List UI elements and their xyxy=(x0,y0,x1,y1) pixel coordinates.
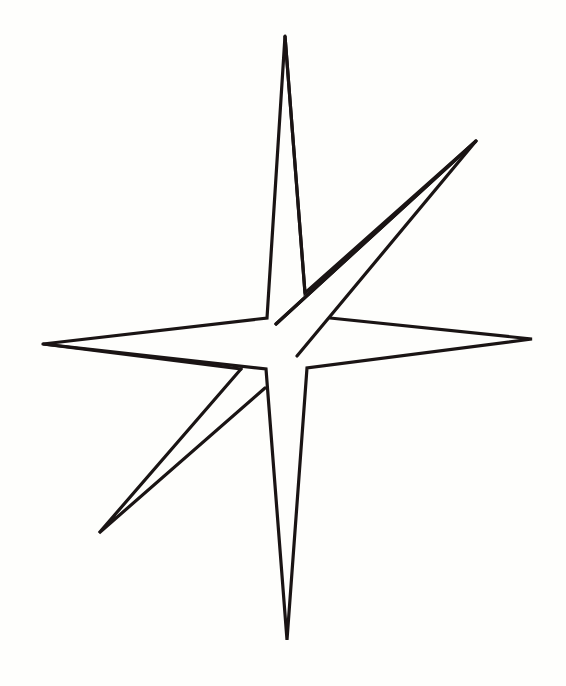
star-drawing xyxy=(0,0,566,686)
diagonal-streak-upper xyxy=(276,141,476,324)
drawing-canvas xyxy=(0,0,566,686)
right-spike xyxy=(43,318,532,640)
diagonal-streak-lower-left xyxy=(99,369,265,533)
top-spike-right-edge xyxy=(285,36,305,293)
